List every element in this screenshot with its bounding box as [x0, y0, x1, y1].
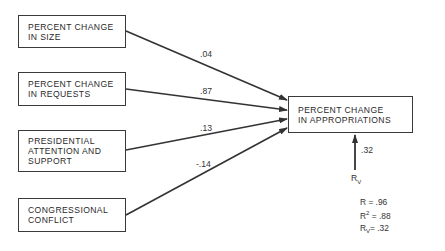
- box-label-line: IN REQUESTS: [28, 89, 125, 99]
- coefficient-presidential: .13: [200, 123, 212, 133]
- box-label-line: CONFLICT: [28, 215, 125, 225]
- coefficient-size: .04: [200, 49, 212, 59]
- box-label-line: PERCENT CHANGE: [28, 22, 125, 32]
- coefficient-congressional: -.14: [196, 159, 211, 169]
- box-label-line: CONGRESSIONAL: [28, 205, 125, 215]
- path-arrow-congressional: [126, 128, 287, 215]
- box-label-line: PERCENT CHANGE: [298, 105, 412, 115]
- box-label-line: ATTENTION AND: [28, 146, 125, 156]
- predictor-box-size: PERCENT CHANGE IN SIZE: [18, 15, 126, 48]
- box-label-line: PERCENT CHANGE: [28, 79, 125, 89]
- box-label-line: SUPPORT: [28, 156, 125, 166]
- stat-r-squared: R2 = .88: [360, 210, 391, 221]
- outcome-box-appropriations: PERCENT CHANGE IN APPROPRIATIONS: [288, 96, 413, 133]
- predictor-box-congressional: CONGRESSIONAL CONFLICT: [18, 198, 126, 232]
- stat-rv: RV= .32: [360, 223, 389, 234]
- box-label-line: IN APPROPRIATIONS: [298, 115, 412, 125]
- stat-r: R = .96: [360, 197, 387, 207]
- residual-label: RV: [351, 173, 361, 185]
- coefficient-requests: .87: [200, 86, 212, 96]
- box-label-line: IN SIZE: [28, 32, 125, 42]
- predictor-box-presidential: PRESIDENTIAL ATTENTION AND SUPPORT: [18, 130, 126, 172]
- coefficient-residual: .32: [361, 145, 373, 155]
- box-label-line: PRESIDENTIAL: [28, 136, 125, 146]
- predictor-box-requests: PERCENT CHANGE IN REQUESTS: [18, 72, 126, 106]
